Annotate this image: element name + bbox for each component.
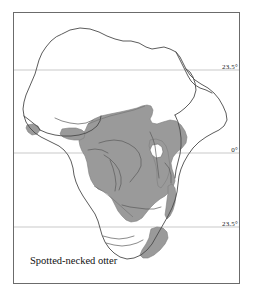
- distribution-range-shading: [26, 105, 187, 258]
- africa-map-svg: [0, 0, 256, 296]
- latitude-label-equator: 0°: [231, 146, 238, 154]
- range-southeast-coast: [140, 227, 168, 258]
- latitude-label-tropic-south: 23.5°: [222, 220, 238, 228]
- river-orange: [103, 236, 134, 239]
- river-niger: [55, 118, 93, 124]
- coastline-horn: [175, 69, 196, 115]
- distribution-map-figure: 23.5° 0° 23.5° Spotted-necked otter: [0, 0, 256, 296]
- latitude-label-tropic-north: 23.5°: [222, 63, 238, 71]
- river-south-cape: [106, 240, 143, 246]
- figure-caption: Spotted-necked otter: [30, 255, 117, 266]
